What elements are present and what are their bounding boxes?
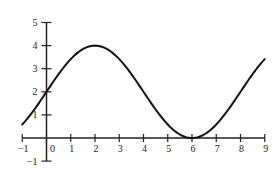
x-tick-label: 1 <box>69 143 74 154</box>
sine-chart: −10123456789−112345 <box>0 0 280 169</box>
x-tick-label: 5 <box>166 143 171 154</box>
y-tick-label: −1 <box>27 156 38 167</box>
y-tick-label: 3 <box>33 63 38 74</box>
x-tick-label: 0 <box>50 143 55 154</box>
x-tick-label: 7 <box>215 143 220 154</box>
y-tick-label: 4 <box>33 40 38 51</box>
y-tick-label: 5 <box>33 17 38 28</box>
x-tick-label: −1 <box>18 143 29 154</box>
x-tick-label: 3 <box>118 143 123 154</box>
x-tick-label: 9 <box>263 143 268 154</box>
x-tick-label: 8 <box>239 143 244 154</box>
y-tick-label: 2 <box>33 86 38 97</box>
x-tick-label: 4 <box>142 143 147 154</box>
x-tick-label: 6 <box>191 143 196 154</box>
curve-line <box>22 46 265 138</box>
x-tick-label: 2 <box>94 143 99 154</box>
